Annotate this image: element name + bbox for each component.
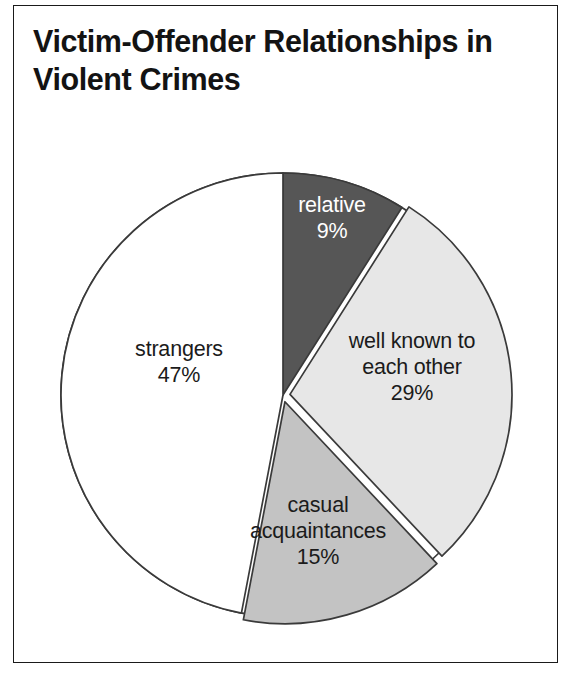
- pie-slice-strangers[interactable]: [61, 173, 283, 613]
- pie-chart-svg: [0, 0, 566, 675]
- pie-chart-plot-area: relative9%well known toeach other29%casu…: [0, 0, 566, 675]
- pie-chart-figure: Victim-Offender Relationships in Violent…: [0, 0, 566, 675]
- pie-slice-group: [61, 173, 512, 624]
